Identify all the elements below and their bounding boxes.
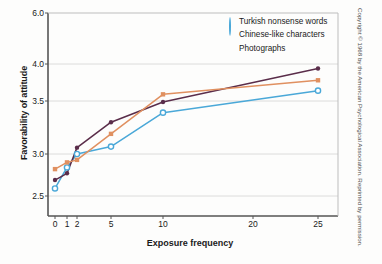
data-point-open-circle (160, 110, 165, 115)
gridlines (48, 64, 338, 196)
data-point-filled-square (75, 158, 79, 162)
data-point-filled-square (53, 167, 57, 171)
chart-legend: Turkish nonsense words Chinese-like char… (228, 15, 327, 54)
legend-label: Chinese-like characters (239, 30, 325, 39)
legend-marker-filled-circle-icon (228, 31, 235, 38)
y-tick-label: 6.0 (14, 8, 44, 18)
x-tick-label: 25 (303, 219, 333, 229)
x-tick-label: 5 (96, 219, 126, 229)
data-point-open-circle (315, 88, 320, 93)
x-tick-label: 10 (148, 219, 178, 229)
copyright-text: Copyright © 1968 by the American Psychol… (357, 8, 365, 258)
legend-marker-filled-square-icon (228, 45, 235, 52)
data-point-filled-square (109, 132, 113, 136)
y-tick-label: 2.5 (14, 191, 44, 201)
legend-item-photographs: Photographs (228, 42, 327, 54)
series-lines (55, 68, 318, 188)
y-axis-title: Favorability of attitude (19, 43, 29, 183)
figure-container: 6.04.03.53.02.5 0125102025 Favorability … (0, 0, 382, 264)
x-tick-label: 20 (238, 219, 268, 229)
legend-label: Turkish nonsense words (239, 17, 327, 26)
series-line-1 (55, 68, 318, 180)
data-point-filled-circle (316, 66, 320, 70)
data-point-filled-square (316, 78, 320, 82)
data-point-open-circle (108, 144, 113, 149)
series-markers (52, 66, 320, 191)
x-axis-tick-labels: 0125102025 (0, 219, 348, 233)
legend-label: Photographs (239, 44, 285, 53)
x-axis-title: Exposure frequency (40, 238, 340, 248)
data-point-filled-circle (65, 171, 69, 175)
series-line-0 (55, 91, 318, 189)
x-tick-label: 2 (62, 219, 92, 229)
data-point-open-circle (52, 186, 57, 191)
data-point-open-circle (64, 165, 69, 170)
data-point-filled-circle (109, 120, 113, 124)
legend-item-turkish-nonsense-words: Turkish nonsense words (228, 15, 327, 27)
copyright-sidebar: Copyright © 1968 by the American Psychol… (351, 0, 382, 264)
plot-area: 6.04.03.53.02.5 0125102025 Favorability … (0, 0, 348, 264)
data-point-open-circle (74, 151, 79, 156)
series-line-2 (55, 80, 318, 169)
legend-item-chinese-like-characters: Chinese-like characters (228, 29, 327, 41)
data-point-filled-circle (75, 145, 79, 149)
data-point-filled-circle (53, 178, 57, 182)
data-point-filled-square (65, 160, 69, 164)
data-point-filled-square (161, 92, 165, 96)
legend-marker-open-circle-icon (228, 18, 235, 25)
data-point-filled-circle (161, 100, 165, 104)
